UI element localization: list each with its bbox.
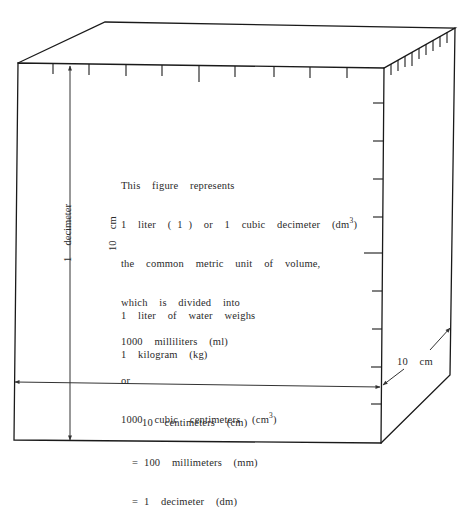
description-line: 1 liter ( 1 ) or 1 cubic decimeter (dm3)	[121, 218, 357, 231]
depth-arrow-lower	[383, 369, 404, 385]
depth-label: 10 cm	[397, 355, 433, 368]
description-line: or	[121, 374, 357, 387]
water-weight-note: 1 liter of water weighs 1 kilogram (kg)	[121, 283, 255, 374]
water-note-line: 1 liter of water weighs	[121, 309, 255, 322]
description-line: the common metric unit of volume,	[121, 257, 357, 270]
water-note-line: 1 kilogram (kg)	[121, 348, 255, 361]
depth-edge-ticks	[391, 32, 447, 75]
width-label-line: = 1 decimeter (dm)	[132, 495, 258, 509]
description-line: This figure represents	[121, 179, 357, 192]
width-label: 10 centimeters (cm) = 100 millimeters (m…	[132, 390, 258, 512]
height-label: 1 decimeter 10 cm	[30, 204, 135, 262]
right-edge-ticks	[364, 103, 384, 404]
height-label-line: 1 decimeter	[60, 204, 75, 262]
cube-right-face-edges	[381, 28, 455, 443]
cube-top-face-edges	[18, 22, 455, 68]
width-label-line: = 100 millimeters (mm)	[132, 456, 258, 470]
width-label-line: 10 centimeters (cm)	[132, 416, 258, 430]
depth-arrow-upper	[430, 328, 450, 350]
height-label-line: 10 cm	[105, 204, 120, 262]
